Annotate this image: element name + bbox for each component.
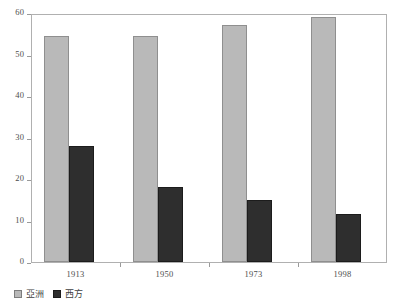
legend-item: 亞洲: [14, 289, 44, 299]
legend-swatch-icon: [14, 290, 22, 298]
bar: [44, 36, 69, 262]
x-axis-group: 1973: [209, 263, 298, 285]
y-axis-tick-label: 10: [15, 215, 24, 225]
bar: [311, 17, 336, 262]
x-axis-tick-label: 1950: [120, 269, 209, 279]
bar: [69, 146, 94, 262]
x-axis-tick-mark: [298, 263, 299, 267]
bar: [133, 36, 158, 262]
y-axis-tick-label: 0: [20, 256, 24, 266]
bar-chart: 0102030405060 1913195019731998 亞洲西方: [0, 0, 398, 304]
bar: [247, 200, 272, 262]
x-axis-tick-mark: [209, 263, 210, 267]
y-axis: 0102030405060: [0, 14, 31, 263]
legend-item: 西方: [53, 289, 83, 299]
legend-swatch-icon: [53, 290, 61, 298]
legend-label: 亞洲: [26, 289, 44, 299]
bar: [222, 25, 247, 262]
x-axis-tick-label: 1998: [298, 269, 387, 279]
x-axis-group: 1950: [120, 263, 209, 285]
y-axis-tick-label: 50: [15, 49, 24, 59]
x-axis: 1913195019731998: [31, 263, 387, 285]
y-axis-tick-label: 40: [15, 90, 24, 100]
x-axis-group: 1998: [298, 263, 387, 285]
y-axis-tick-label: 30: [15, 132, 24, 142]
plot-area: [31, 14, 387, 263]
bar: [336, 214, 361, 262]
y-axis-tick-label: 20: [15, 173, 24, 183]
x-axis-tick-mark: [120, 263, 121, 267]
x-axis-group: 1913: [31, 263, 120, 285]
y-axis-tick-label: 60: [15, 7, 24, 17]
x-axis-tick-label: 1973: [209, 269, 298, 279]
bar: [158, 187, 183, 262]
x-axis-tick-label: 1913: [31, 269, 120, 279]
legend-label: 西方: [65, 289, 83, 299]
chart-legend: 亞洲西方: [14, 287, 83, 300]
